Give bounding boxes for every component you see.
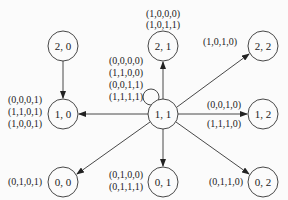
edge-1-1-to-0-2	[176, 122, 249, 174]
node-label-2-1: 2, 1	[155, 40, 172, 52]
node-label-1-2: 1, 2	[255, 108, 272, 120]
state-transition-diagram: 2, 0 2, 1 2, 2 1, 0 1, 1 1, 2 0, 0 0, 1 …	[0, 0, 288, 200]
self-loop-label-1: (1,1,0,0)	[109, 67, 143, 79]
node-label-2-0: 2, 0	[55, 40, 72, 52]
node-label-2-2: 2, 2	[255, 40, 272, 52]
to-1-2-label-bottom: (1,1,1,0)	[207, 118, 241, 130]
edge-labels: (0,0,0,0) (1,1,0,0) (0,0,1,1) (1,1,1,1) …	[8, 8, 243, 193]
to-1-0-label-0: (0,0,0,1)	[8, 94, 42, 106]
edge-1-1-to-0-0	[77, 122, 150, 174]
to-0-1-label-1: (0,1,1,1)	[109, 181, 143, 193]
node-label-0-0: 0, 0	[55, 176, 72, 188]
to-0-2-label-0: (0,1,1,0)	[209, 176, 243, 188]
to-0-1-label-0: (0,1,0,0)	[109, 169, 143, 181]
node-label-1-1: 1, 1	[155, 108, 172, 120]
to-2-2-label-0: (1,0,1,0)	[203, 36, 237, 48]
node-label-0-1: 0, 1	[155, 176, 172, 188]
node-label-0-2: 0, 2	[255, 176, 272, 188]
to-1-2-label-top: (0,0,1,0)	[207, 99, 241, 111]
node-label-1-0: 1, 0	[55, 108, 72, 120]
self-loop-label-2: (0,0,1,1)	[109, 79, 143, 91]
self-loop-label-0: (0,0,0,0)	[109, 55, 143, 67]
self-loop-label-3: (1,1,1,1)	[109, 91, 143, 103]
to-2-1-label-1: (1,0,1,1)	[146, 19, 180, 31]
to-1-0-label-1: (1,1,0,1)	[8, 106, 42, 118]
to-0-0-label-0: (0,1,0,1)	[8, 176, 42, 188]
to-1-0-label-2: (1,0,0,1)	[8, 118, 42, 130]
